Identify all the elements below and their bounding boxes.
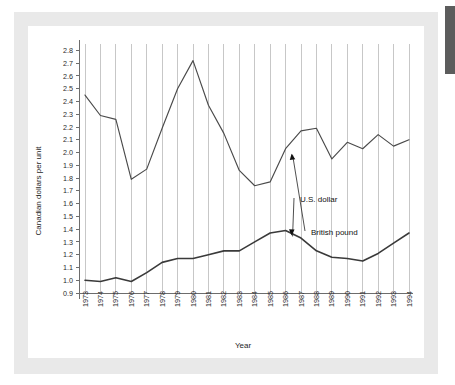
x-tick-label: 1981 (204, 291, 213, 307)
y-tick-label: 2.5 (63, 84, 73, 93)
y-tick-label: 1.3 (63, 238, 73, 247)
series-annotation-label: British pound (311, 228, 358, 237)
x-tick-label: 1993 (389, 291, 398, 307)
y-tick-label: 2.1 (63, 135, 73, 144)
chart-svg: 0.91.01.11.21.31.41.51.61.71.81.92.02.12… (28, 26, 424, 358)
x-tick-label: 1987 (297, 291, 306, 307)
y-tick-label: 2.6 (63, 72, 73, 81)
series-group (85, 61, 409, 282)
y-tick-labels-group: 0.91.01.11.21.31.41.51.61.71.81.92.02.12… (63, 46, 73, 298)
x-tick-label: 1974 (96, 291, 105, 307)
x-tick-label: 1989 (327, 291, 336, 307)
x-tick-label: 1973 (81, 291, 90, 307)
y-tick-label: 2.7 (63, 59, 73, 68)
x-tick-label: 1979 (173, 291, 182, 307)
y-axis-title: Canadian dollars per unit (34, 146, 43, 236)
series-annotation-label: U.S. dollar (300, 195, 338, 204)
x-tick-label: 1985 (266, 291, 275, 307)
line-chart: 0.91.01.11.21.31.41.51.61.71.81.92.02.12… (28, 26, 424, 358)
scroll-edge-marker[interactable] (445, 6, 455, 74)
x-tick-label: 1976 (127, 291, 136, 307)
y-tick-label: 1.4 (63, 225, 73, 234)
series-line-u-s-dollar (85, 230, 409, 281)
x-tick-label: 1991 (358, 291, 367, 307)
series-line-british-pound (85, 61, 409, 186)
annotation-arrow-icon (290, 154, 296, 160)
figure-card: 0.91.01.11.21.31.41.51.61.71.81.92.02.12… (28, 26, 424, 358)
x-axis-title: Year (235, 341, 252, 350)
x-tick-label: 1982 (219, 291, 228, 307)
y-tick-label: 0.9 (63, 289, 73, 298)
x-tick-label: 1983 (235, 291, 244, 307)
y-tick-label: 2.2 (63, 123, 73, 132)
x-tick-label: 1992 (374, 291, 383, 307)
page-root: 0.91.01.11.21.31.41.51.61.71.81.92.02.12… (0, 0, 455, 385)
y-tick-label: 2.8 (63, 46, 73, 55)
y-tick-label: 1.6 (63, 199, 73, 208)
x-tick-label: 1977 (142, 291, 151, 307)
x-tick-label: 1986 (281, 291, 290, 307)
x-tick-label: 1994 (405, 291, 414, 307)
y-tick-label: 1.8 (63, 174, 73, 183)
y-tick-label: 1.7 (63, 186, 73, 195)
annotation-leader-line (293, 155, 305, 231)
x-tick-label: 1975 (111, 291, 120, 307)
y-tick-label: 2.0 (63, 148, 73, 157)
y-tick-label: 1.0 (63, 276, 73, 285)
y-tick-label: 1.2 (63, 250, 73, 259)
y-tick-label: 2.4 (63, 97, 73, 106)
y-tick-label: 1.1 (63, 263, 73, 272)
x-tick-label: 1988 (312, 291, 321, 307)
y-tick-label: 1.5 (63, 212, 73, 221)
x-tick-label: 1978 (158, 291, 167, 307)
y-tick-label: 2.3 (63, 110, 73, 119)
x-tick-label: 1984 (250, 291, 259, 307)
x-tick-label: 1980 (189, 291, 198, 307)
y-tick-label: 1.9 (63, 161, 73, 170)
x-tick-label: 1990 (343, 291, 352, 307)
gridlines-group (85, 44, 409, 293)
